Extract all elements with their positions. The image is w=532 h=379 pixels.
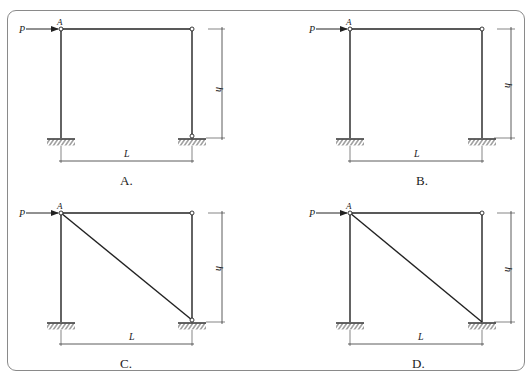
load-label: P	[18, 208, 25, 219]
width-label: L	[128, 331, 135, 342]
diagonal-brace	[61, 213, 192, 320]
width-label: L	[123, 148, 130, 159]
node-label: A	[345, 17, 352, 27]
hinge-icon	[190, 318, 194, 322]
option-d-diagram: P A L h D.	[308, 201, 515, 371]
width-label: L	[417, 331, 424, 342]
option-caption: A.	[120, 173, 133, 188]
fixed-support-icon	[468, 323, 496, 330]
fixed-support-icon	[468, 139, 496, 146]
option-caption: B.	[416, 173, 428, 188]
node-label: A	[56, 201, 63, 211]
option-caption: D.	[412, 356, 425, 371]
load-label: P	[308, 208, 315, 219]
hinge-icon	[480, 211, 484, 215]
hinge-icon	[480, 27, 484, 31]
fixed-support-icon	[47, 139, 75, 146]
option-caption: C.	[120, 356, 132, 371]
diagonal-brace	[350, 213, 482, 322]
node-label: A	[345, 201, 352, 211]
option-c-diagram: P A L h C.	[18, 201, 225, 371]
hinge-icon	[59, 211, 63, 215]
fixed-support-icon	[336, 139, 364, 146]
hinge-icon	[190, 211, 194, 215]
height-label: h	[214, 266, 225, 271]
node-label: A	[56, 17, 63, 27]
height-label: h	[214, 87, 225, 92]
height-label: h	[503, 267, 514, 272]
fixed-support-icon	[336, 323, 364, 330]
load-label: P	[18, 24, 25, 35]
height-label: h	[503, 83, 514, 88]
option-b-diagram: P A L h B.	[308, 17, 515, 188]
load-label: P	[308, 24, 315, 35]
fixed-support-icon	[178, 323, 206, 330]
fixed-support-icon	[47, 323, 75, 330]
fixed-support-icon	[178, 139, 206, 146]
hinge-icon	[348, 27, 352, 31]
width-label: L	[413, 148, 420, 159]
hinge-icon	[190, 134, 194, 138]
hinge-icon	[190, 27, 194, 31]
option-a-diagram: P A L h A.	[18, 17, 225, 188]
frame-diagrams: P A L h A. P A L h	[0, 0, 532, 379]
hinge-icon	[348, 211, 352, 215]
hinge-icon	[59, 27, 63, 31]
